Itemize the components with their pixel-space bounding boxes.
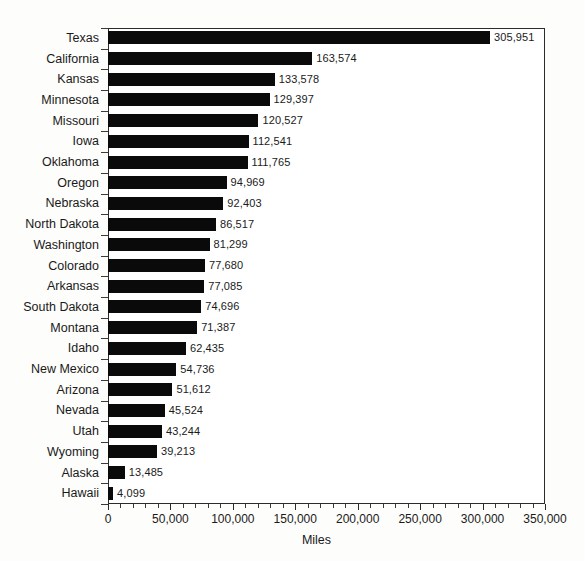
bar-row: 43,244 (108, 421, 545, 441)
x-axis-minor-tick (383, 504, 384, 508)
x-axis-tick-label: 100,000 (211, 512, 254, 526)
bar-arkansas (108, 280, 204, 293)
y-axis-label-nebraska: Nebraska (0, 194, 104, 214)
y-axis-label-arkansas: Arkansas (0, 276, 104, 296)
bar-value-label: 77,085 (204, 281, 242, 292)
y-axis-tick (101, 152, 108, 153)
x-axis-minor-tick (145, 504, 146, 508)
bar-nebraska (108, 197, 223, 210)
bar-row: 71,387 (108, 318, 545, 338)
bar-row: 133,578 (108, 69, 545, 89)
y-axis-tick (101, 276, 108, 277)
x-axis-minor-tick (370, 504, 371, 508)
y-axis-label-south-dakota: South Dakota (0, 297, 104, 317)
x-axis-minor-tick (158, 504, 159, 508)
bar-row: 120,527 (108, 111, 545, 131)
bar-row: 13,485 (108, 463, 545, 483)
x-axis-minor-tick (308, 504, 309, 508)
x-axis-major-tick (233, 504, 234, 510)
y-axis-tick (101, 69, 108, 70)
x-axis-minor-tick (320, 504, 321, 508)
bar-value-label: 51,612 (172, 384, 210, 395)
bar-row: 51,612 (108, 380, 545, 400)
bar-minnesota (108, 93, 270, 106)
x-axis-minor-tick (395, 504, 396, 508)
bar-value-label: 112,541 (249, 136, 293, 147)
bar-row: 86,517 (108, 214, 545, 234)
x-axis-major-tick (545, 504, 546, 510)
x-axis-tick-label: 0 (105, 512, 112, 526)
x-axis-title: Miles (0, 533, 585, 547)
y-axis-tick (101, 49, 108, 50)
bar-row: 94,969 (108, 173, 545, 193)
y-axis-label-colorado: Colorado (0, 256, 104, 276)
bar-kansas (108, 73, 275, 86)
y-axis-label-idaho: Idaho (0, 338, 104, 358)
x-axis-minor-tick (433, 504, 434, 508)
bar-arizona (108, 383, 172, 396)
bar-row: 39,213 (108, 442, 545, 462)
bar-chart: TexasCaliforniaKansasMinnesotaMissouriIo… (0, 0, 585, 561)
bar-idaho (108, 342, 186, 355)
x-axis-minor-tick (120, 504, 121, 508)
x-axis-major-tick (358, 504, 359, 510)
bar-value-label: 54,736 (176, 364, 214, 375)
x-axis-minor-tick (508, 504, 509, 508)
bar-row: 92,403 (108, 194, 545, 214)
bar-montana (108, 321, 197, 334)
bar-new-mexico (108, 363, 176, 376)
y-axis-tick (101, 421, 108, 422)
y-axis-tick (101, 256, 108, 257)
x-axis-major-tick (295, 504, 296, 510)
x-axis-minor-tick (520, 504, 521, 508)
y-axis-tick (101, 463, 108, 464)
bar-california (108, 52, 312, 65)
x-axis-minor-tick (258, 504, 259, 508)
bar-wyoming (108, 445, 157, 458)
x-axis-minor-tick (283, 504, 284, 508)
bar-row: 129,397 (108, 90, 545, 110)
x-axis-tick-label: 150,000 (274, 512, 317, 526)
y-axis-label-oregon: Oregon (0, 173, 104, 193)
bar-row: 163,574 (108, 49, 545, 69)
x-axis-major-tick (483, 504, 484, 510)
y-axis-tick (101, 504, 108, 505)
x-axis-minor-tick (470, 504, 471, 508)
y-axis-label-utah: Utah (0, 421, 104, 441)
x-axis-tick-label: 250,000 (398, 512, 441, 526)
bar-value-label: 81,299 (210, 239, 248, 250)
y-axis-tick (101, 194, 108, 195)
bar-row: 77,085 (108, 276, 545, 296)
bar-value-label: 13,485 (125, 467, 163, 478)
bar-value-label: 305,951 (490, 32, 534, 43)
bar-row: 74,696 (108, 297, 545, 317)
bar-row: 77,680 (108, 256, 545, 276)
bar-value-label: 45,524 (165, 405, 203, 416)
x-axis-tick-label: 350,000 (523, 512, 566, 526)
bars-container: 305,951163,574133,578129,397120,527112,5… (108, 28, 545, 504)
y-axis-label-washington: Washington (0, 235, 104, 255)
bar-value-label: 129,397 (270, 94, 314, 105)
bar-value-label: 74,696 (201, 301, 239, 312)
y-axis-label-arizona: Arizona (0, 380, 104, 400)
y-axis-label-kansas: Kansas (0, 69, 104, 89)
y-axis-label-minnesota: Minnesota (0, 90, 104, 110)
bar-utah (108, 425, 162, 438)
y-axis-category-labels: TexasCaliforniaKansasMinnesotaMissouriIo… (0, 28, 104, 504)
x-axis-minor-tick (195, 504, 196, 508)
y-axis-tick (101, 359, 108, 360)
bar-value-label: 39,213 (157, 446, 195, 457)
bar-oklahoma (108, 156, 248, 169)
y-axis-label-missouri: Missouri (0, 111, 104, 131)
y-axis-tick (101, 442, 108, 443)
bar-alaska (108, 466, 125, 479)
x-axis-minor-tick (458, 504, 459, 508)
bar-value-label: 111,765 (248, 157, 291, 168)
y-axis-tick (101, 28, 108, 29)
bar-iowa (108, 135, 249, 148)
bar-north-dakota (108, 218, 216, 231)
x-axis-minor-tick (345, 504, 346, 508)
y-axis-tick (101, 483, 108, 484)
y-axis-tick (101, 131, 108, 132)
y-axis-label-iowa: Iowa (0, 131, 104, 151)
